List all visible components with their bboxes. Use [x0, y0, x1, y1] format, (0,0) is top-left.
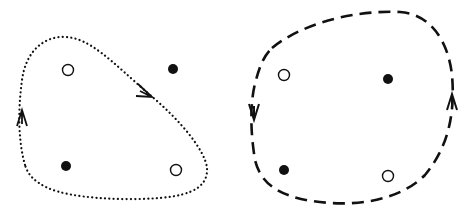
filled-charge-point: [279, 165, 289, 175]
filled-charge-point: [61, 161, 71, 171]
dashed-loop: [251, 12, 452, 204]
open-charge-point: [171, 165, 182, 176]
open-charge-point: [279, 70, 290, 81]
right-panel: [249, 12, 457, 204]
filled-charge-point: [383, 74, 393, 84]
diagram-canvas: [0, 0, 471, 222]
arrow-up-icon: [447, 94, 457, 110]
open-charge-point: [383, 171, 394, 182]
arrow-down-icon: [249, 104, 259, 120]
arrow-down-right-icon: [136, 84, 152, 97]
filled-charge-point: [168, 64, 178, 74]
open-charge-point: [63, 65, 74, 76]
left-panel: [17, 37, 207, 199]
